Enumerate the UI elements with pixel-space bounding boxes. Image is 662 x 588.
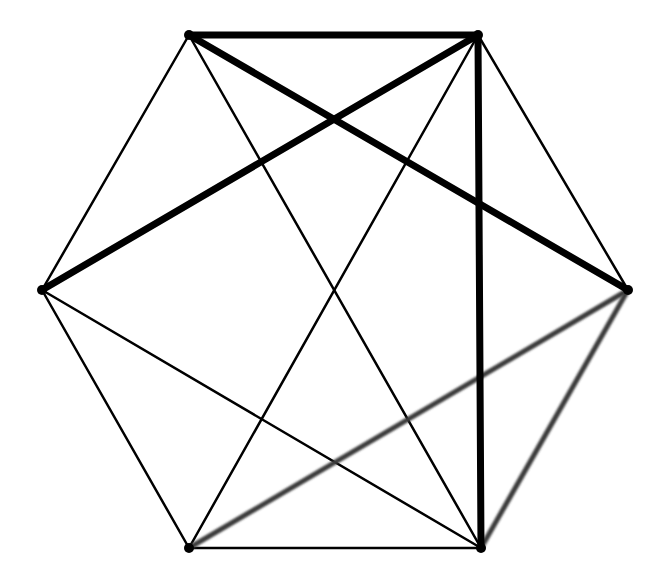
edge-tr-br (478, 35, 481, 548)
vertex-r (623, 285, 633, 295)
vertex-br (476, 543, 486, 553)
edge-r-br (481, 290, 628, 548)
vertex-bl (184, 543, 194, 553)
edge-tl-l (42, 35, 189, 290)
edge-tr-r (478, 35, 628, 290)
vertex-l (37, 285, 47, 295)
edge-r-bl (189, 290, 628, 548)
edge-l-bl (42, 290, 189, 548)
k6-graph-diagram (0, 0, 662, 588)
edge-l-br (42, 290, 481, 548)
vertex-tl (184, 30, 194, 40)
edge-layer (42, 35, 628, 548)
vertex-tr (473, 30, 483, 40)
